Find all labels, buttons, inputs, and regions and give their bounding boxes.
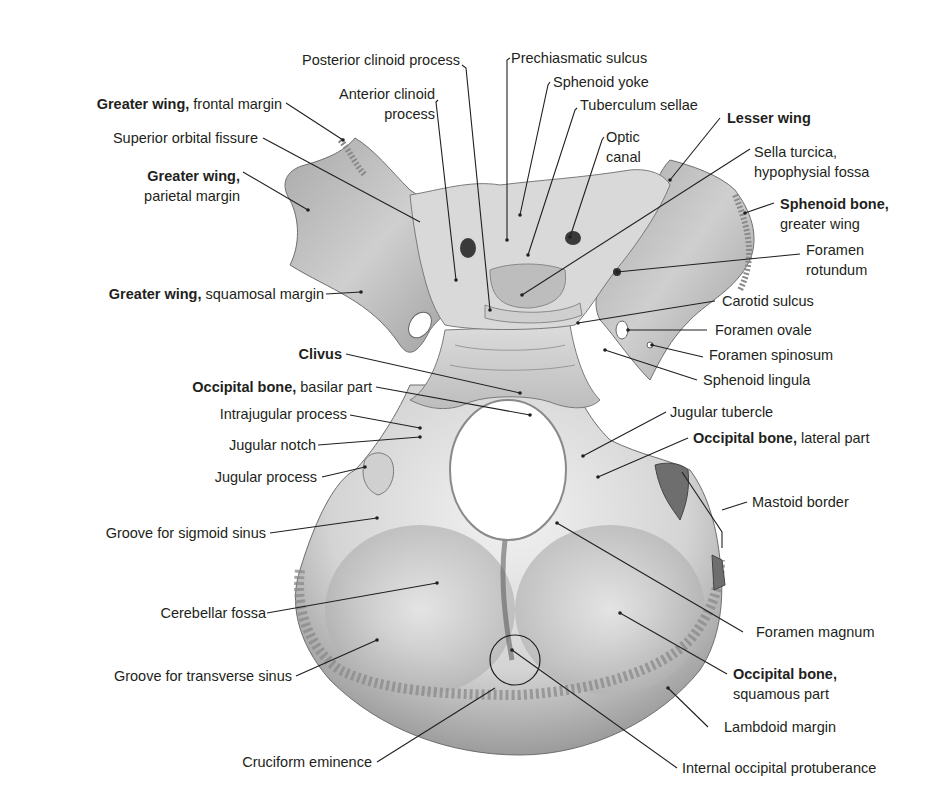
optic-canal-line2: canal	[606, 147, 641, 167]
label-bold-part: Sphenoid bone,	[780, 196, 889, 212]
label-occipital-bone-squamous-part: Occipital bone, squamous part	[733, 664, 837, 704]
label-bold-part: Greater wing,	[109, 286, 202, 302]
label-bold-part: Lesser wing	[727, 110, 811, 126]
label-clivus: Clivus	[298, 346, 342, 363]
label-occipital-bone-basilar-part: Occipital bone, basilar part	[192, 379, 372, 396]
label-sphenoid-bone-greater-wing: Sphenoid bone, greater wing	[780, 194, 889, 234]
label-posterior-clinoid-process: Posterior clinoid process	[302, 52, 460, 69]
label-greater-wing-parietal-margin: Greater wing, parietal margin	[144, 166, 240, 206]
label-mastoid-border: Mastoid border	[752, 494, 849, 511]
label-optic-canal: Optic canal	[606, 127, 641, 167]
squamous-line2: squamous part	[733, 684, 837, 704]
foramen-magnum	[450, 400, 566, 540]
rotundum-line1: Foramen	[806, 240, 867, 260]
label-bold-part: Clivus	[298, 346, 342, 362]
label-lambdoid-margin: Lambdoid margin	[724, 719, 836, 736]
label-groove-sigmoid-sinus: Groove for sigmoid sinus	[106, 525, 266, 542]
label-anterior-clinoid-process: Anterior clinoid process	[339, 84, 435, 124]
label-cruciform-eminence: Cruciform eminence	[242, 754, 372, 771]
label-lesser-wing: Lesser wing	[727, 110, 811, 127]
left-cerebellar-fossa	[325, 525, 515, 695]
sella-line2: hypophysial fossa	[754, 162, 869, 182]
parietal-line2: parietal margin	[144, 186, 240, 206]
label-bold-part: Greater wing,	[147, 168, 240, 184]
label-jugular-tubercle: Jugular tubercle	[670, 404, 773, 421]
label-sella-turcica: Sella turcica, hypophysial fossa	[754, 142, 869, 182]
sph-gw-line2: greater wing	[780, 214, 889, 234]
label-greater-wing-frontal-margin: Greater wing, frontal margin	[97, 96, 282, 113]
occipital-bone	[295, 385, 725, 755]
label-normal-part: lateral part	[797, 430, 870, 446]
label-tuberculum-sellae: Tuberculum sellae	[580, 97, 698, 114]
label-internal-occipital-protuberance: Internal occipital protuberance	[682, 760, 876, 777]
label-intrajugular-process: Intrajugular process	[220, 406, 347, 423]
label-jugular-process: Jugular process	[215, 469, 317, 486]
label-normal-part: squamosal margin	[202, 286, 325, 302]
label-bold-part: Occipital bone,	[733, 666, 837, 682]
rotundum-line2: rotundum	[806, 260, 867, 280]
label-prechiasmatic-sulcus: Prechiasmatic sulcus	[511, 50, 647, 67]
label-sphenoid-yoke: Sphenoid yoke	[553, 74, 649, 91]
label-greater-wing-squamosal-margin: Greater wing, squamosal margin	[109, 286, 324, 303]
label-bold-part: Greater wing,	[97, 96, 190, 112]
label-superior-orbital-fissure: Superior orbital fissure	[113, 130, 258, 147]
label-jugular-notch: Jugular notch	[229, 437, 316, 454]
label-normal-part: frontal margin	[189, 96, 282, 112]
label-carotid-sulcus: Carotid sulcus	[722, 293, 814, 310]
label-cerebellar-fossa: Cerebellar fossa	[160, 605, 266, 622]
basilar-part	[410, 325, 600, 409]
label-occipital-bone-lateral-part: Occipital bone, lateral part	[693, 430, 869, 447]
label-foramen-spinosum: Foramen spinosum	[709, 347, 833, 364]
label-foramen-rotundum: Foramen rotundum	[806, 240, 867, 280]
anterior-clinoid-line2: process	[339, 104, 435, 124]
label-groove-transverse-sinus: Groove for transverse sinus	[114, 668, 292, 685]
label-foramen-magnum: Foramen magnum	[756, 624, 874, 641]
anterior-clinoid-line1: Anterior clinoid	[339, 84, 435, 104]
label-foramen-ovale: Foramen ovale	[715, 322, 812, 339]
label-normal-part: basilar part	[296, 379, 372, 395]
right-cerebellar-fossa	[515, 525, 705, 695]
sella-line1: Sella turcica,	[754, 142, 869, 162]
label-sphenoid-lingula: Sphenoid lingula	[703, 372, 810, 389]
label-bold-part: Occipital bone,	[192, 379, 296, 395]
optic-canal-line1: Optic	[606, 127, 641, 147]
label-bold-part: Occipital bone,	[693, 430, 797, 446]
